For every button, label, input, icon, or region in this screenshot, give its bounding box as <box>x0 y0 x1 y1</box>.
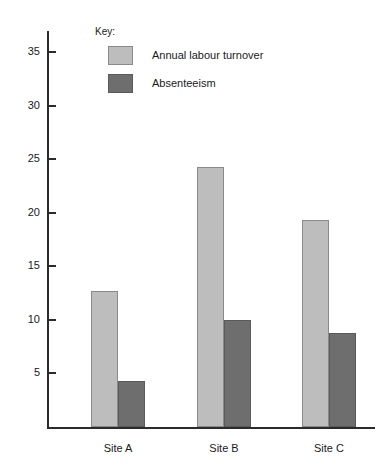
y-axis-tick-label: 10 <box>14 314 40 325</box>
legend-swatch-absenteeism <box>108 74 133 93</box>
legend-entry-annual-labour-turnover: Annual labour turnover <box>95 43 295 67</box>
x-axis-category-label: Site B <box>179 442 269 454</box>
y-axis-tick-label: 20 <box>14 207 40 218</box>
legend-title: Key: <box>95 26 295 38</box>
bar-group <box>302 31 356 427</box>
x-axis-category-label: Site C <box>284 442 374 454</box>
legend-label-absenteeism: Absenteeism <box>152 77 216 89</box>
bar <box>302 220 329 427</box>
x-axis-line <box>47 427 375 429</box>
bar-chart: 5101520253035 Site ASite BSite C Key: An… <box>0 0 382 468</box>
y-axis-tick-label: 30 <box>14 100 40 111</box>
y-axis-tick-label: 35 <box>14 46 40 57</box>
bar <box>224 320 251 427</box>
bar <box>91 291 118 427</box>
legend-label-annual-labour-turnover: Annual labour turnover <box>152 49 263 61</box>
x-axis-category-label: Site A <box>73 442 163 454</box>
bar <box>197 167 224 427</box>
y-axis-tick-label: 25 <box>14 153 40 164</box>
legend-swatch-annual-labour-turnover <box>108 46 133 65</box>
legend-entry-absenteeism: Absenteeism <box>95 71 295 95</box>
y-axis-tick-label: 5 <box>14 367 40 378</box>
chart-legend: Key: Annual labour turnover Absenteeism <box>95 26 295 99</box>
bar <box>118 381 145 427</box>
bar <box>329 333 356 427</box>
y-axis-tick-label: 15 <box>14 260 40 271</box>
